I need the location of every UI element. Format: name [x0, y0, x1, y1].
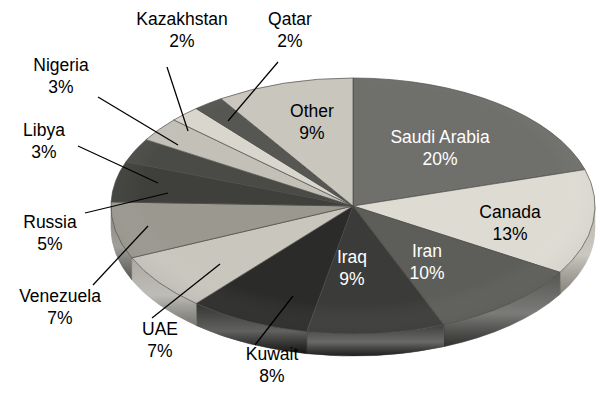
slice-label-russia: Russia [23, 212, 77, 232]
slice-percent-libya: 3% [31, 142, 56, 162]
slice-label-other: Other [290, 101, 334, 121]
slice-percent-saudi-arabia: 20% [422, 149, 457, 169]
slice-percent-iran: 10% [409, 263, 444, 283]
slice-percent-venezuela: 7% [47, 308, 72, 328]
slice-percent-canada: 13% [492, 224, 527, 244]
slice-percent-nigeria: 3% [48, 77, 73, 97]
slice-label-uae: UAE [142, 319, 178, 339]
slice-label-iraq: Iraq [337, 247, 367, 267]
slice-percent-kuwait: 8% [259, 366, 284, 386]
slice-label-canada: Canada [479, 202, 541, 222]
slice-percent-russia: 5% [37, 234, 62, 254]
slice-percent-uae: 7% [147, 341, 172, 361]
slice-label-libya: Libya [23, 120, 65, 140]
slice-label-qatar: Qatar [268, 9, 312, 29]
slice-label-nigeria: Nigeria [33, 55, 89, 75]
slice-percent-iraq: 9% [339, 269, 364, 289]
slice-label-kazakhstan: Kazakhstan [136, 9, 227, 29]
slice-label-venezuela: Venezuela [19, 286, 101, 306]
slice-percent-kazakhstan: 2% [169, 31, 194, 51]
pie-chart-figure: Saudi Arabia20%Canada13%Iran10%Iraq9%Kuw… [0, 0, 600, 413]
slice-label-kuwait: Kuwait [246, 344, 299, 364]
pie-chart-svg: Saudi Arabia20%Canada13%Iran10%Iraq9%Kuw… [0, 0, 600, 413]
slice-percent-other: 9% [299, 123, 324, 143]
slice-label-saudi-arabia: Saudi Arabia [390, 127, 490, 147]
slice-percent-qatar: 2% [277, 31, 302, 51]
slice-label-iran: Iran [412, 241, 442, 261]
